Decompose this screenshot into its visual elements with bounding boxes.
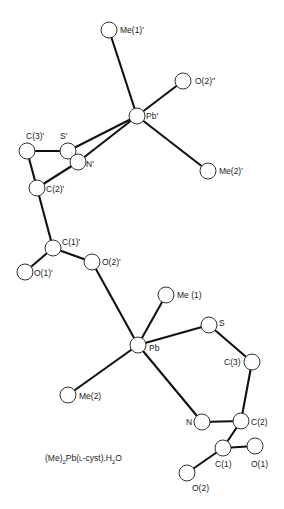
bond-pb-me2: [68, 345, 138, 395]
atom-circle: [45, 240, 61, 256]
atom-label: S: [219, 318, 225, 328]
atom-me2: Me(2): [60, 387, 101, 403]
atom-c3p: C(3)': [19, 131, 45, 159]
bond-o2pp-pbp: [137, 81, 183, 116]
atom-label: C(1): [215, 459, 232, 469]
atom-circle: [244, 354, 260, 370]
atom-label: C(2)': [46, 184, 65, 194]
atom-label: C(3)': [26, 131, 45, 141]
atom-circle: [233, 413, 249, 429]
atom-circle: [17, 264, 33, 280]
atom-me1: Me (1): [158, 287, 202, 303]
bond-pbp-me2p: [137, 116, 208, 171]
atom-circle: [215, 440, 231, 456]
bond-c2p-c1p: [37, 188, 53, 248]
atom-circle: [19, 143, 35, 159]
atoms-layer: Me(1)'O(2)"Pb'C(3)'S'N'Me(2)'C(2)'C(1)'O…: [17, 22, 268, 493]
atom-label: O(1)': [34, 268, 53, 278]
atom-me2p: Me(2)': [200, 163, 243, 179]
atom-label: Me(1)': [120, 25, 144, 35]
bond-pb-n: [138, 345, 202, 422]
atom-c2: C(2): [233, 413, 268, 429]
atom-circle: [60, 387, 76, 403]
atom-label: Me(2): [79, 391, 101, 401]
atom-circle: [84, 254, 100, 270]
caption: (Me)2Pb(L-cyst).H2O: [45, 453, 122, 465]
atom-c1: C(1): [215, 440, 232, 469]
atom-c3: C(3): [224, 354, 260, 370]
atom-circle: [247, 438, 263, 454]
bond-o2p-pb: [92, 262, 138, 345]
atom-np: N': [70, 154, 94, 170]
atom-label: O(2): [192, 483, 209, 493]
atom-label: O(2)": [195, 76, 215, 86]
atom-label: Pb': [146, 111, 158, 121]
atom-me1p: Me(1)': [101, 22, 144, 38]
atom-label: N': [86, 159, 94, 169]
bond-pbp-sp: [68, 116, 137, 151]
atom-circle: [179, 465, 195, 481]
atom-label: C(3): [224, 357, 241, 367]
atom-label: C(1)': [62, 237, 81, 247]
atom-circle: [130, 337, 146, 353]
atom-circle: [70, 154, 86, 170]
atom-circle: [101, 22, 117, 38]
atom-circle: [158, 287, 174, 303]
atom-circle: [194, 414, 210, 430]
atom-label: Me (1): [177, 290, 202, 300]
bond-pbp-np: [78, 116, 137, 162]
atom-label: Pb: [149, 343, 160, 353]
atom-circle: [200, 163, 216, 179]
bond-c3-c2: [241, 362, 252, 421]
atom-label: N: [186, 417, 192, 427]
atom-label: C(2): [251, 417, 268, 427]
atom-o2p: O(2)': [84, 254, 121, 270]
atom-label: O(2)': [102, 257, 121, 267]
atom-label: O(1): [251, 459, 268, 469]
atom-label: Me(2)': [219, 166, 243, 176]
atom-n: N: [186, 414, 210, 430]
molecular-structure-diagram: Me(1)'O(2)"Pb'C(3)'S'N'Me(2)'C(2)'C(1)'O…: [0, 0, 284, 509]
bond-me1p-pbp: [109, 30, 137, 116]
atom-circle: [29, 180, 45, 196]
atom-s: S: [201, 317, 225, 333]
atom-circle: [129, 108, 145, 124]
atom-o1p: O(1)': [17, 264, 53, 280]
atom-circle: [201, 317, 217, 333]
atom-o2: O(2): [179, 465, 209, 493]
atom-o2pp: O(2)": [175, 73, 215, 89]
atom-circle: [175, 73, 191, 89]
atom-o1: O(1): [247, 438, 268, 469]
atom-label: S': [60, 131, 68, 141]
